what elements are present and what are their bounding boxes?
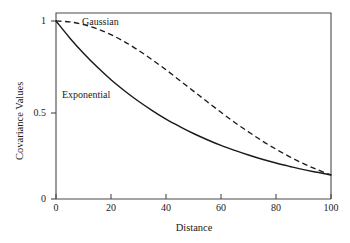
x-axis-ticks xyxy=(56,194,331,199)
y-axis-ticks xyxy=(51,21,56,199)
series-label-gaussian: Gaussian xyxy=(82,17,119,27)
y-tick-label-0.5: 0.5 xyxy=(22,108,46,118)
x-axis-title: Distance xyxy=(176,223,213,234)
x-tick-label-20: 20 xyxy=(106,203,116,213)
x-tick-label-100: 100 xyxy=(324,203,339,213)
series-label-exponential: Exponential xyxy=(62,90,110,100)
y-tick-label-0: 0 xyxy=(30,194,46,204)
chart-plot-area xyxy=(0,0,350,243)
x-tick-label-0: 0 xyxy=(54,203,59,213)
x-tick-label-40: 40 xyxy=(161,203,171,213)
y-tick-label-1: 1 xyxy=(30,16,46,26)
plot-frame xyxy=(56,13,331,199)
x-tick-label-60: 60 xyxy=(216,203,226,213)
chart-figure: 0 20 40 60 80 100 0 0.5 1 Covariance Val… xyxy=(0,0,350,243)
x-tick-label-80: 80 xyxy=(271,203,281,213)
y-axis-title: Covariance Values xyxy=(15,82,26,160)
